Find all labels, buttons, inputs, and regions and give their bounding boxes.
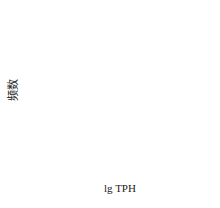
x-axis-label: lg TPH [104,182,136,194]
y-axis-label: 频数 [6,79,19,101]
histogram-chart: lg TPH 频数 [0,0,220,208]
